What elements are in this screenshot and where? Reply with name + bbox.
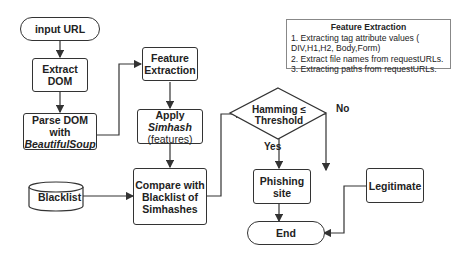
decision-label-1: Hamming ≤ — [249, 104, 309, 115]
extract-dom-node: Extract DOM — [32, 58, 88, 92]
legitimate-node: Legitimate — [366, 168, 424, 203]
note-title: Feature Extraction — [291, 22, 446, 33]
feature-extraction-node: Feature Extraction — [142, 47, 198, 81]
apply-simhash-label-1: Apply — [155, 109, 184, 121]
compare-label-3: Simhashes — [142, 203, 197, 215]
note-item-1: 1. Extracting tag attribute values ( DIV… — [291, 33, 446, 54]
apply-simhash-label-3: (features) — [148, 133, 193, 145]
apply-simhash-label-2: Simhash — [148, 121, 192, 133]
compare-label-1: Compare with — [135, 179, 204, 191]
parse-dom-label-2: BeautifulSoup — [24, 138, 95, 150]
feature-extraction-label-2: Extraction — [144, 64, 195, 76]
compare-node: Compare with Blacklist of Simhashes — [133, 168, 207, 225]
end-label: End — [276, 227, 296, 239]
edge-label-yes: Yes — [264, 141, 281, 152]
decision-label-2: Threshold — [249, 115, 309, 126]
end-node: End — [247, 221, 325, 245]
edge-label-no: No — [336, 103, 349, 114]
extract-dom-label-2: DOM — [48, 75, 73, 87]
start-input-url: input URL — [20, 17, 100, 41]
phishing-site-node: Phishing site — [253, 169, 311, 204]
note-item-2: 2. Extract file names from requestURLs. — [291, 54, 446, 65]
legitimate-label: Legitimate — [369, 180, 422, 192]
apply-simhash-node: Apply Simhash (features) — [137, 109, 203, 144]
note-item-3: 3. Extracting paths from requestURLs. — [291, 64, 446, 75]
blacklist-label: Blacklist — [38, 191, 81, 203]
feature-extraction-label-1: Feature — [151, 52, 189, 64]
parse-dom-node: Parse DOM with BeautifulSoup — [23, 113, 97, 150]
phishing-label: Phishing site — [254, 175, 310, 199]
extract-dom-label-1: Extract — [42, 63, 78, 75]
compare-label-2: Blacklist of — [142, 191, 198, 203]
feature-extraction-note: Feature Extraction 1. Extracting tag att… — [286, 19, 451, 69]
input-url-label: input URL — [35, 23, 85, 35]
decision-label: Hamming ≤ Threshold — [249, 104, 309, 126]
parse-dom-label-1: Parse DOM with — [24, 114, 96, 138]
